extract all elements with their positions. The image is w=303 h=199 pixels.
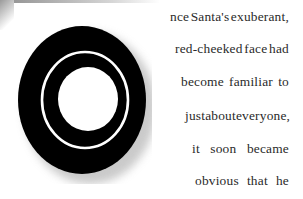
text-line: nceSanta'sexuberant, (170, 9, 289, 25)
text-line: justabouteveryone, (185, 108, 289, 124)
text-line: red-cheekedfacehad (175, 41, 289, 57)
text-line: becomefamiliarto (181, 74, 289, 90)
drop-cap-o-icon (10, 16, 152, 184)
text-line: itsoonbecame (192, 141, 289, 157)
text-line: obviousthathe (195, 173, 289, 189)
scan-edge (0, 0, 160, 3)
book-page: nceSanta'sexuberant, red-cheekedfacehad … (0, 0, 303, 199)
